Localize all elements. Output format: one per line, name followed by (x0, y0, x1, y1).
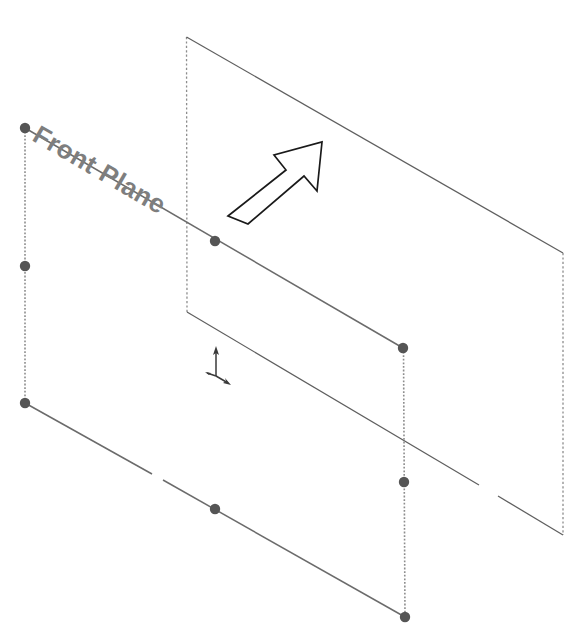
front-plane-handle-right-midpoint[interactable] (399, 477, 409, 487)
direction-arrow-icon[interactable] (228, 142, 322, 224)
background-plane-edge-bottom-segment-b[interactable] (498, 496, 563, 535)
origin-triad[interactable] (205, 346, 231, 385)
background-plane-edge-bottom-segment-a[interactable] (187, 312, 479, 485)
front-plane-vertex-bottom-left[interactable] (20, 398, 30, 408)
background-reference-plane[interactable] (187, 37, 564, 535)
front-plane-vertex-top-right[interactable] (398, 343, 408, 353)
front-plane-handle-left-midpoint[interactable] (20, 261, 30, 271)
cad-scene-canvas[interactable]: Front Plane (0, 0, 568, 629)
front-plane-label: Front Plane (28, 119, 171, 220)
front-plane-vertex-top-left[interactable] (20, 123, 30, 133)
front-plane-handle-top-midpoint[interactable] (210, 236, 220, 246)
front-plane-handle-bottom-midpoint[interactable] (210, 504, 220, 514)
front-plane-edge-bottom-segment-a[interactable] (25, 403, 152, 474)
extrusion-direction-arrow[interactable] (228, 142, 322, 224)
front-plane-label-group: Front Plane (28, 119, 171, 220)
background-plane-edge-top[interactable] (187, 37, 564, 253)
front-plane[interactable] (20, 123, 410, 622)
cad-viewport[interactable]: Front Plane (0, 0, 568, 629)
front-plane-vertex-bottom-right[interactable] (400, 612, 410, 622)
background-plane-edge-left[interactable] (187, 37, 188, 312)
front-plane-edge-bottom-segment-b[interactable] (163, 480, 405, 617)
